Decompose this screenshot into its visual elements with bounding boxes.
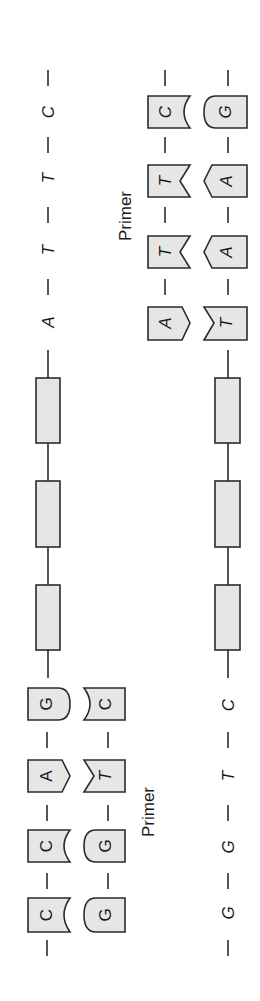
exon-block — [215, 481, 240, 547]
top-primer-strand: C T T A — [148, 70, 190, 340]
base-label: G — [219, 906, 238, 919]
gene-strand-right — [215, 350, 240, 678]
base-label: G — [96, 908, 115, 921]
base-label: A — [217, 246, 236, 258]
pcr-primer-diagram: C T T A Primer C T T A G A — [0, 0, 260, 1001]
base-label: G — [37, 697, 56, 710]
primer-label-top: Primer — [116, 191, 135, 241]
exon-block — [36, 585, 60, 650]
base-label: A — [39, 316, 58, 328]
primer-label-bottom: Primer — [139, 787, 158, 837]
base-label: T — [39, 171, 58, 183]
top-template-strand: C T T A — [39, 70, 58, 329]
base-label: T — [156, 245, 175, 257]
base-label: C — [156, 105, 175, 118]
exon-block — [36, 378, 60, 443]
exon-block — [215, 378, 240, 443]
base-label: T — [96, 769, 115, 781]
top-complement-strand: G A A T — [204, 70, 247, 340]
bottom-complement-strand: C T G G — [84, 688, 125, 932]
diagram-canvas: C T T A Primer C T T A G A — [0, 0, 260, 1001]
exon-block — [36, 481, 60, 547]
base-label: C — [37, 840, 56, 852]
base-label: G — [219, 840, 238, 853]
base-label: C — [39, 105, 58, 118]
bottom-primer-strand: G A C C — [28, 688, 70, 956]
exon-block — [215, 585, 240, 650]
base-label: A — [156, 317, 175, 329]
base-label: T — [39, 243, 58, 255]
bottom-template-strand: C T G G — [219, 698, 238, 956]
base-label: C — [37, 909, 56, 921]
base-label: G — [216, 105, 235, 118]
gene-strand-left — [36, 350, 60, 678]
base-label: C — [96, 698, 115, 710]
base-label: A — [37, 770, 56, 782]
base-label: T — [217, 316, 236, 328]
base-label: A — [217, 175, 236, 187]
base-label: T — [156, 174, 175, 186]
base-label: G — [96, 839, 115, 852]
base-label: T — [219, 769, 238, 781]
base-label: C — [219, 698, 238, 711]
